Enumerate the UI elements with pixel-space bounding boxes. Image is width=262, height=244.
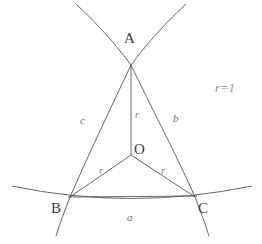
radius-label-oc: r bbox=[161, 166, 165, 176]
radius-label-ob: r bbox=[99, 166, 103, 176]
side-label-b: b bbox=[173, 113, 179, 124]
geometry-figure: A B C O a b c r r r r=1 bbox=[0, 0, 262, 244]
side-label-c: c bbox=[80, 115, 85, 126]
side-label-a: a bbox=[127, 212, 133, 223]
vertex-label-a: A bbox=[124, 31, 135, 46]
arc-b-right bbox=[76, 4, 209, 236]
vertex-label-c: C bbox=[198, 201, 208, 216]
vertex-label-b: B bbox=[51, 201, 61, 216]
vertex-label-o: O bbox=[134, 142, 145, 157]
radius-label-oa: r bbox=[135, 110, 139, 120]
radius-value-annotation: r=1 bbox=[215, 82, 235, 94]
arc-c-left bbox=[56, 4, 186, 236]
